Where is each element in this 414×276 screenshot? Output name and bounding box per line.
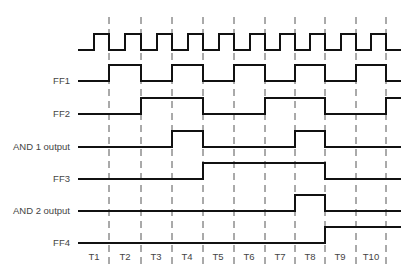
time-label-t6: T6	[234, 251, 264, 262]
time-label-t1: T1	[79, 251, 109, 262]
time-label-t5: T5	[203, 251, 233, 262]
signal-label-and2: AND 2 output	[0, 205, 70, 216]
time-label-t7: T7	[265, 251, 295, 262]
time-label-t3: T3	[141, 251, 171, 262]
ff4-waveform	[78, 227, 401, 243]
time-label-t2: T2	[110, 251, 140, 262]
ff2-waveform	[78, 98, 401, 114]
signal-label-ff2: FF2	[0, 108, 70, 119]
and2-waveform	[78, 195, 401, 211]
signal-label-ff4: FF4	[0, 237, 70, 248]
and1-waveform	[78, 131, 401, 147]
timing-waveforms	[0, 0, 414, 276]
ff1-waveform	[78, 65, 401, 81]
signal-label-ff1: FF1	[0, 75, 70, 86]
time-label-t4: T4	[172, 251, 202, 262]
signal-label-ff3: FF3	[0, 173, 70, 184]
timing-diagram: FF1 FF2 AND 1 output FF3 AND 2 output FF…	[0, 0, 414, 276]
clock-waveform	[78, 34, 401, 50]
time-label-t10: T10	[356, 251, 386, 262]
signal-label-and1: AND 1 output	[0, 141, 70, 152]
time-label-t9: T9	[325, 251, 355, 262]
time-label-t8: T8	[295, 251, 325, 262]
ff3-waveform	[78, 163, 401, 179]
